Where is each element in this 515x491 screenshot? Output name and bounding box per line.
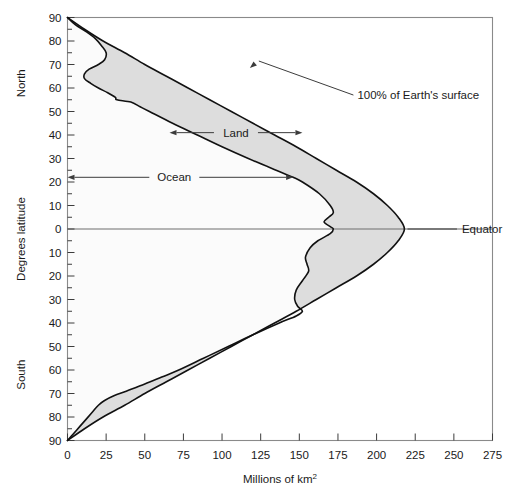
y-tick-label: 80	[49, 35, 62, 47]
y-tick-label: 90	[49, 435, 62, 447]
y-tick-label: 80	[49, 411, 62, 423]
y-tick-label: 70	[49, 59, 62, 71]
y-tick-label: 60	[49, 82, 62, 94]
x-tick-label: 50	[138, 449, 151, 461]
x-tick-label: 100	[212, 449, 231, 461]
x-tick-label: 200	[367, 449, 386, 461]
x-tick-label: 125	[251, 449, 270, 461]
y-tick-label: 10	[49, 200, 62, 212]
x-axis-title-superscript: 2	[313, 472, 318, 481]
total-surface-leader	[259, 61, 354, 95]
y-tick-label: 20	[49, 270, 62, 282]
annotation-arrowhead	[248, 62, 257, 70]
y-axis-north-label: North	[15, 69, 27, 97]
y-tick-label: 30	[49, 294, 62, 306]
y-tick-label: 10	[49, 247, 62, 259]
x-tick-label: 175	[328, 449, 347, 461]
y-tick-label: 0	[55, 223, 61, 235]
x-tick-label: 150	[290, 449, 309, 461]
y-tick-label: 60	[49, 364, 62, 376]
y-tick-label: 20	[49, 176, 62, 188]
x-tick-label: 225	[406, 449, 425, 461]
x-tick-label: 250	[444, 449, 463, 461]
y-tick-label: 30	[49, 153, 62, 165]
x-tick-label: 75	[177, 449, 190, 461]
x-axis-title: Millions of km2	[243, 472, 318, 485]
y-axis-tick-labels: 9080706050403020100102030405060708090	[49, 12, 62, 447]
y-tick-label: 40	[49, 317, 62, 329]
y-tick-label: 40	[49, 129, 62, 141]
annotation-equator: Equator	[462, 223, 502, 235]
annotation-total-surface: 100% of Earth's surface	[357, 89, 479, 101]
x-axis-ticks	[68, 434, 493, 441]
y-tick-label: 70	[49, 388, 62, 400]
y-axis-title: Degrees latitude	[15, 197, 27, 281]
x-tick-label: 0	[64, 449, 70, 461]
y-tick-label: 90	[49, 12, 62, 24]
x-axis-tick-labels: 0255075100125150175200225250275	[64, 449, 502, 461]
annotation-arrowhead	[295, 130, 302, 135]
annotation-land: Land	[223, 127, 249, 139]
chart-canvas: 9080706050403020100102030405060708090 02…	[0, 0, 515, 491]
x-tick-label: 25	[100, 449, 113, 461]
y-tick-label: 50	[49, 341, 62, 353]
y-tick-label: 50	[49, 106, 62, 118]
latitude-area-chart: 9080706050403020100102030405060708090 02…	[0, 0, 515, 491]
annotation-ocean: Ocean	[157, 171, 191, 183]
y-axis-south-label: South	[15, 360, 27, 390]
x-tick-label: 275	[483, 449, 502, 461]
